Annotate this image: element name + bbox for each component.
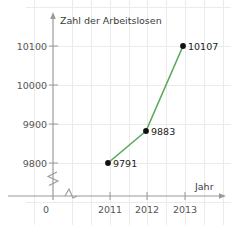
data-point-label: 10107	[188, 41, 218, 52]
data-point-label: 9791	[113, 158, 137, 169]
origin-label: 0	[43, 204, 49, 215]
data-points	[105, 43, 186, 166]
x-tick-label: 2013	[173, 204, 197, 215]
series-line	[108, 46, 183, 163]
data-point[interactable]	[105, 160, 111, 166]
y-tick-label: 9800	[23, 158, 47, 169]
y-tick-label: 9900	[23, 119, 47, 130]
x-axis-break-icon	[65, 189, 77, 198]
y-tick-label: 10100	[17, 41, 47, 52]
data-point[interactable]	[143, 128, 149, 134]
y-tick-label: 10000	[17, 80, 47, 91]
x-axis	[8, 189, 226, 200]
chart-container: 10100 10000 9900 9800 0 2011 2012 2013 Z…	[0, 0, 231, 225]
y-axis-arrow-icon	[50, 12, 56, 19]
y-axis	[48, 12, 58, 200]
data-point[interactable]	[180, 43, 186, 49]
x-tick-labels: 0 2011 2012 2013	[43, 204, 197, 215]
y-axis-title: Zahl der Arbeitslosen	[60, 15, 162, 26]
y-tick-labels: 10100 10000 9900 9800	[17, 41, 47, 169]
x-tick-label: 2011	[98, 204, 122, 215]
line-chart: 10100 10000 9900 9800 0 2011 2012 2013 Z…	[0, 0, 231, 225]
data-point-label: 9883	[151, 126, 175, 137]
x-axis-title: Jahr	[194, 181, 214, 192]
y-axis-break-icon	[48, 172, 58, 186]
x-tick-label: 2012	[135, 204, 159, 215]
